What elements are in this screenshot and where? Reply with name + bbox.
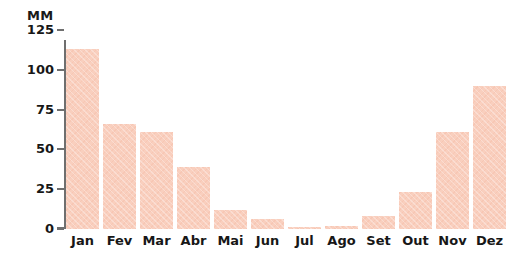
bar-jul[interactable] [288,30,321,229]
y-axis-tick-50 [57,148,64,150]
x-axis-label-fev: Fev [101,233,138,248]
bar-chart: MM 0255075100125 JanFevMarAbrMaiJunJulAg… [0,0,521,265]
bar-out[interactable] [399,30,432,229]
y-axis-tick-25 [57,188,64,190]
x-axis-label-mar: Mar [138,233,175,248]
bar-rect-fev [103,124,136,229]
x-axis-label-abr: Abr [175,233,212,248]
x-axis-label-mai: Mai [212,233,249,248]
x-axis-label-jul: Jul [286,233,323,248]
bar-rect-jan [66,49,99,229]
bar-set[interactable] [362,30,395,229]
bar-rect-mar [140,132,173,229]
bar-mai[interactable] [214,30,247,229]
bar-jun[interactable] [251,30,284,229]
bar-dez[interactable] [473,30,506,229]
bar-fev[interactable] [103,30,136,229]
x-axis-tick-labels: JanFevMarAbrMaiJunJulAgoSetOutNovDez [66,233,512,253]
bar-rect-dez [473,86,506,229]
bar-jan[interactable] [66,30,99,229]
y-axis-tick-100 [57,69,64,71]
y-axis-tick-75 [57,109,64,111]
x-axis-label-dez: Dez [471,233,508,248]
y-axis-tick-0 [57,228,64,230]
bar-mar[interactable] [140,30,173,229]
x-axis-label-ago: Ago [323,233,360,248]
y-axis-tick-125 [57,29,64,31]
bar-nov[interactable] [436,30,469,229]
bar-rect-set [362,216,395,229]
x-axis-label-out: Out [397,233,434,248]
y-axis-tick-label-125: 125 [20,23,54,36]
y-axis-tick-label-100: 100 [20,63,54,76]
y-axis-tick-labels: 0255075100125 [16,0,54,265]
bar-rect-jun [251,219,284,229]
bar-rect-ago [325,226,358,229]
bar-rect-out [399,192,432,229]
x-axis-label-nov: Nov [434,233,471,248]
y-axis-tick-label-0: 0 [20,222,54,235]
bar-ago[interactable] [325,30,358,229]
bar-rect-nov [436,132,469,229]
y-axis-tick-label-25: 25 [20,182,54,195]
x-axis-label-set: Set [360,233,397,248]
bar-rect-abr [177,167,210,229]
x-axis-label-jun: Jun [249,233,286,248]
y-axis-tick-label-75: 75 [20,103,54,116]
bar-abr[interactable] [177,30,210,229]
plot-area [66,30,512,229]
bar-rect-jul [288,227,321,229]
x-axis-label-jan: Jan [64,233,101,248]
y-axis-tick-label-50: 50 [20,142,54,155]
bar-rect-mai [214,210,247,229]
